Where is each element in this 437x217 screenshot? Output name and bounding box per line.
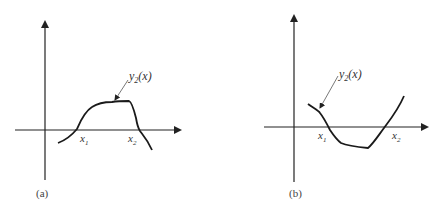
panel-a: y2(x) x1 x2 (a) bbox=[15, 22, 180, 200]
caption-b: (b) bbox=[289, 187, 302, 200]
diagram-canvas: y2(x) x1 x2 (a) y2(x) x1 x2 (b) bbox=[0, 0, 437, 217]
root-label-x2-b: x2 bbox=[391, 129, 401, 144]
root-label-x1-a: x1 bbox=[79, 132, 88, 147]
leader-line-a bbox=[115, 80, 128, 100]
root-label-x1-b: x1 bbox=[317, 129, 326, 144]
curve-label-a: y2(x) bbox=[128, 69, 152, 85]
leader-line-b bbox=[320, 76, 338, 108]
panel-b: y2(x) x1 x2 (b) bbox=[264, 16, 427, 200]
root-label-x2-a: x2 bbox=[127, 132, 137, 147]
curve-y2-a bbox=[58, 101, 152, 150]
curve-label-b: y2(x) bbox=[338, 67, 362, 83]
caption-a: (a) bbox=[36, 187, 49, 200]
